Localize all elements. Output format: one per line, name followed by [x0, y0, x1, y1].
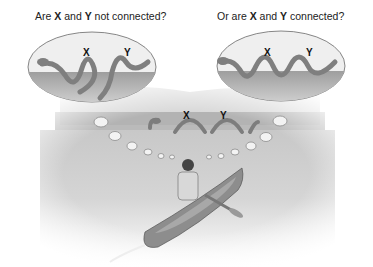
caption-text: and [61, 10, 84, 22]
left-label-y: Y [124, 47, 131, 58]
left-label-x: X [83, 47, 90, 58]
caption-text: Are [35, 10, 54, 22]
lake-label-y: Y [220, 110, 227, 121]
caption-text: connected? [287, 10, 344, 22]
caption-x: X [250, 10, 257, 22]
lake-label-x: X [183, 110, 190, 121]
illustration [0, 0, 373, 267]
lake-monster-diagram: Are X and Y not connected? Or are X and … [0, 0, 373, 267]
left-caption: Are X and Y not connected? [35, 10, 166, 22]
caption-text: and [257, 10, 280, 22]
caption-text: Or are [217, 10, 250, 22]
right-caption: Or are X and Y connected? [217, 10, 344, 22]
caption-y: Y [85, 10, 92, 22]
right-label-x: X [264, 47, 271, 58]
caption-text: not connected? [92, 10, 167, 22]
right-label-y: Y [306, 47, 313, 58]
